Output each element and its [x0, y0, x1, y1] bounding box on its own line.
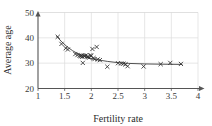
data-point	[179, 62, 183, 66]
x-tick-label: 1	[36, 91, 41, 101]
x-tick-label: 2	[89, 91, 94, 101]
y-axis-title: Average age	[2, 25, 13, 75]
x-tick-label: 4	[196, 91, 201, 101]
data-point	[142, 64, 146, 68]
x-tick-labels: 11.522.533.54	[36, 91, 201, 101]
y-tick-label: 50	[25, 8, 35, 18]
y-tick-labels: 20304050	[25, 8, 35, 94]
y-tick-label: 30	[25, 58, 35, 68]
fertility-age-scatter-figure: 11.522.533.54 20304050 Fertility rate Av…	[0, 0, 212, 126]
x-tick-label: 2.5	[112, 91, 124, 101]
data-point	[105, 65, 109, 69]
data-point	[59, 42, 63, 46]
y-tick-label: 20	[25, 84, 35, 94]
fit-curve	[57, 36, 182, 64]
axes	[35, 11, 204, 91]
gridlines	[38, 13, 198, 89]
x-tick-label: 1.5	[59, 91, 71, 101]
y-tick-label: 40	[25, 33, 35, 43]
data-point	[95, 45, 99, 49]
data-point	[56, 35, 60, 39]
x-tick-label: 3	[142, 91, 147, 101]
data-point	[90, 47, 94, 51]
x-tick-label: 3.5	[166, 91, 178, 101]
data-point	[126, 64, 130, 68]
x-axis-title: Fertility rate	[93, 113, 143, 124]
chart-canvas: 11.522.533.54 20304050 Fertility rate Av…	[0, 0, 212, 126]
